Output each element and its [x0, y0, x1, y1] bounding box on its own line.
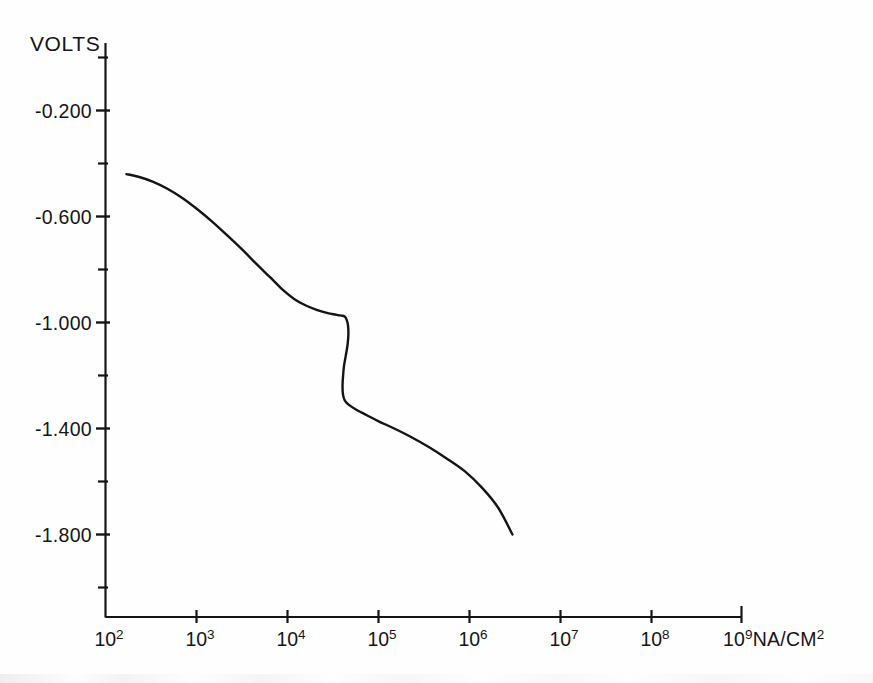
y-tick-label-1: -0.200	[6, 100, 92, 123]
x-tick-label-6: 107	[549, 628, 578, 651]
x-tick-label-3: 104	[276, 628, 305, 651]
x-tick-base-3: 10	[276, 628, 298, 650]
y-tick-label-2: -0.600	[6, 206, 92, 229]
x-tick-exp-4: 5	[389, 627, 397, 642]
x-major-ticks	[197, 606, 742, 623]
scan-edge-artifact	[0, 674, 873, 683]
x-tick-base-6: 10	[549, 628, 571, 650]
x-tick-exp-2: 3	[207, 627, 215, 642]
x-tick-label-7: 108	[640, 628, 669, 651]
x-tick-base-1: 10	[94, 628, 116, 650]
x-tick-label-5: 106	[458, 628, 487, 651]
x-tick-base-5: 10	[458, 628, 480, 650]
y-axis-title: VOLTS	[30, 32, 100, 56]
x-tick-exp-3: 4	[298, 627, 306, 642]
x-unit-exp: 2	[817, 627, 825, 642]
x-tick-exp-6: 7	[571, 627, 579, 642]
x-tick-label-4: 105	[367, 628, 396, 651]
y-tick-label-3: -1.000	[6, 312, 92, 335]
x-tick-base-8: 10	[723, 628, 745, 650]
x-tick-base-2: 10	[185, 628, 207, 650]
x-tick-base-7: 10	[640, 628, 662, 650]
x-axis-unit-label: 109NA/CM2	[723, 628, 824, 651]
x-tick-exp-1: 2	[116, 627, 124, 642]
data-curve	[126, 174, 512, 534]
x-tick-label-2: 103	[185, 628, 214, 651]
x-unit-text: NA/CM	[753, 628, 817, 650]
y-major-ticks	[96, 111, 110, 535]
x-tick-base-4: 10	[367, 628, 389, 650]
y-tick-label-4: -1.400	[6, 418, 92, 441]
y-tick-label-5: -1.800	[6, 524, 92, 547]
figure-canvas: VOLTS -0.200 -0.600 -1.000 -1.400 -1.800…	[0, 0, 873, 683]
x-tick-label-1: 102	[94, 628, 123, 651]
x-tick-exp-8: 9	[745, 627, 753, 642]
x-tick-exp-5: 6	[480, 627, 488, 642]
x-tick-exp-7: 8	[662, 627, 670, 642]
plot-area	[0, 0, 873, 683]
